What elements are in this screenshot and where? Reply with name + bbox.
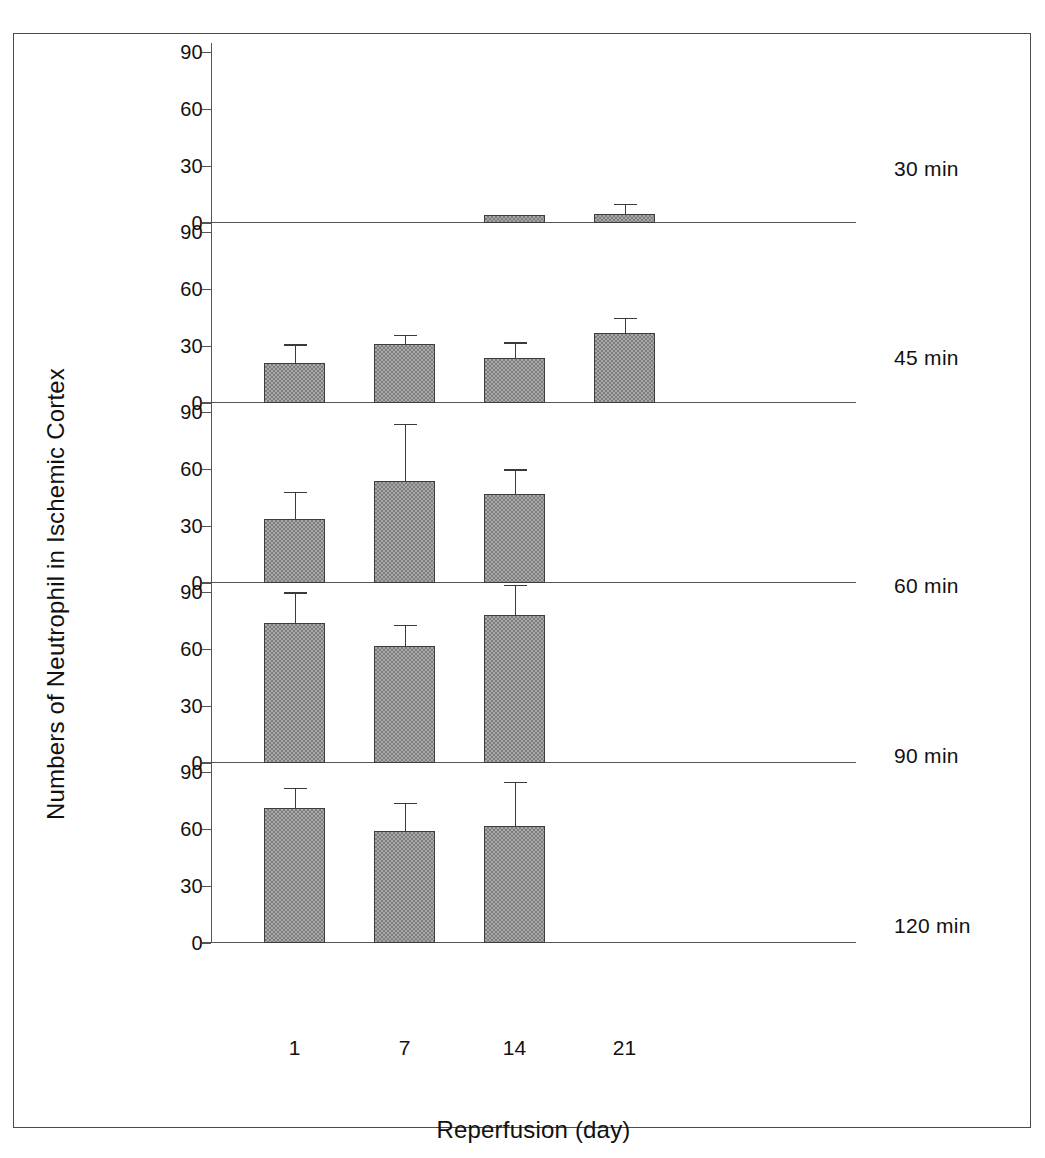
bar-30-min-day-14 bbox=[484, 215, 545, 223]
y-tick-0 bbox=[202, 402, 211, 403]
y-tick-label-60: 60 bbox=[143, 98, 203, 121]
bar-120-min-day-1 bbox=[264, 808, 325, 943]
y-axis-spine bbox=[211, 223, 212, 403]
error-bar-cap bbox=[504, 585, 527, 586]
y-tick-label-0: 0 bbox=[143, 932, 203, 955]
panel-label-90-min: 90 min bbox=[894, 744, 959, 768]
error-bar-stem bbox=[625, 204, 626, 213]
bar-120-min-day-14 bbox=[484, 826, 545, 943]
bar-90-min-day-1 bbox=[264, 623, 325, 763]
error-bar-stem bbox=[295, 344, 296, 363]
y-tick-90 bbox=[202, 232, 211, 233]
bar-45-min-day-7 bbox=[374, 344, 435, 403]
y-tick-label-60: 60 bbox=[143, 818, 203, 841]
error-bar-cap bbox=[284, 492, 307, 493]
panel-120-min: 0306090 bbox=[211, 763, 856, 943]
y-tick-label-90: 90 bbox=[143, 41, 203, 64]
y-tick-60 bbox=[202, 829, 211, 830]
panel-label-45-min: 45 min bbox=[894, 346, 959, 370]
y-tick-label-60: 60 bbox=[143, 278, 203, 301]
panel-90-min: 0306090 bbox=[211, 583, 856, 763]
y-tick-label-30: 30 bbox=[143, 875, 203, 898]
y-tick-30 bbox=[202, 526, 211, 527]
y-tick-30 bbox=[202, 706, 211, 707]
error-bar-stem bbox=[625, 318, 626, 333]
panel-label-120-min: 120 min bbox=[894, 914, 971, 938]
y-tick-0 bbox=[202, 222, 211, 223]
bar-45-min-day-14 bbox=[484, 358, 545, 403]
error-bar-stem bbox=[405, 625, 406, 646]
x-tick-label-7: 7 bbox=[399, 1036, 411, 1060]
y-tick-label-90: 90 bbox=[143, 761, 203, 784]
y-tick-90 bbox=[202, 772, 211, 773]
error-bar-stem bbox=[405, 335, 406, 344]
error-bar-cap bbox=[504, 469, 527, 470]
error-bar-stem bbox=[295, 492, 296, 519]
figure-frame: Numbers of Neutrophil in Ischemic Cortex… bbox=[13, 33, 1031, 1128]
x-tick-label-14: 14 bbox=[503, 1036, 526, 1060]
x-tick-label-1: 1 bbox=[289, 1036, 301, 1060]
y-tick-60 bbox=[202, 469, 211, 470]
y-tick-30 bbox=[202, 886, 211, 887]
y-tick-0 bbox=[202, 942, 211, 943]
error-bar-cap bbox=[614, 204, 637, 205]
y-tick-30 bbox=[202, 166, 211, 167]
bar-60-min-day-14 bbox=[484, 494, 545, 583]
y-tick-90 bbox=[202, 412, 211, 413]
bar-45-min-day-1 bbox=[264, 363, 325, 403]
x-axis-tick-labels: 171421 bbox=[211, 1036, 856, 1068]
y-tick-60 bbox=[202, 109, 211, 110]
error-bar-cap bbox=[394, 335, 417, 336]
y-tick-label-90: 90 bbox=[143, 401, 203, 424]
bar-60-min-day-1 bbox=[264, 519, 325, 583]
y-tick-0 bbox=[202, 762, 211, 763]
y-axis-spine bbox=[211, 403, 212, 583]
y-tick-label-30: 30 bbox=[143, 695, 203, 718]
y-axis-title: Numbers of Neutrophil in Ischemic Cortex bbox=[42, 314, 70, 874]
y-tick-label-90: 90 bbox=[143, 581, 203, 604]
y-tick-label-30: 30 bbox=[143, 335, 203, 358]
panel-label-30-min: 30 min bbox=[894, 157, 959, 181]
error-bar-stem bbox=[405, 803, 406, 831]
bar-45-min-day-21 bbox=[594, 333, 655, 403]
figure-canvas: Numbers of Neutrophil in Ischemic Cortex… bbox=[0, 0, 1045, 1158]
error-bar-stem bbox=[515, 782, 516, 826]
error-bar-cap bbox=[394, 803, 417, 804]
y-tick-60 bbox=[202, 649, 211, 650]
bar-120-min-day-7 bbox=[374, 831, 435, 943]
y-tick-label-60: 60 bbox=[143, 458, 203, 481]
error-bar-cap bbox=[394, 424, 417, 425]
y-axis-spine bbox=[211, 43, 212, 223]
error-bar-cap bbox=[504, 782, 527, 783]
y-tick-60 bbox=[202, 289, 211, 290]
x-tick-label-21: 21 bbox=[613, 1036, 636, 1060]
bar-60-min-day-7 bbox=[374, 481, 435, 583]
y-axis-spine bbox=[211, 763, 212, 943]
error-bar-cap bbox=[394, 625, 417, 626]
bar-90-min-day-14 bbox=[484, 615, 545, 763]
y-tick-label-90: 90 bbox=[143, 221, 203, 244]
panel-label-60-min: 60 min bbox=[894, 574, 959, 598]
y-tick-label-60: 60 bbox=[143, 638, 203, 661]
error-bar-cap bbox=[284, 592, 307, 593]
error-bar-stem bbox=[295, 592, 296, 622]
error-bar-stem bbox=[515, 469, 516, 494]
y-tick-label-30: 30 bbox=[143, 515, 203, 538]
error-bar-cap bbox=[284, 788, 307, 789]
panel-45-min: 0306090 bbox=[211, 223, 856, 403]
y-axis-spine bbox=[211, 583, 212, 763]
error-bar-cap bbox=[284, 344, 307, 345]
error-bar-cap bbox=[614, 318, 637, 319]
error-bar-cap bbox=[504, 342, 527, 343]
error-bar-stem bbox=[405, 424, 406, 481]
bar-30-min-day-21 bbox=[594, 214, 655, 223]
panel-60-min: 0306090 bbox=[211, 403, 856, 583]
error-bar-stem bbox=[515, 342, 516, 357]
x-axis-title: Reperfusion (day) bbox=[211, 1116, 856, 1144]
error-bar-stem bbox=[295, 788, 296, 809]
panel-30-min: 0306090 bbox=[211, 43, 856, 223]
y-tick-90 bbox=[202, 52, 211, 53]
bar-90-min-day-7 bbox=[374, 646, 435, 763]
y-tick-90 bbox=[202, 592, 211, 593]
error-bar-stem bbox=[515, 585, 516, 615]
